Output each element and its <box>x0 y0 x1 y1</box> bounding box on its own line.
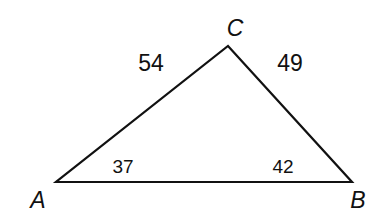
side-label-ac: 54 <box>138 50 164 76</box>
triangle-abc <box>56 46 352 182</box>
angle-label-a: 37 <box>112 156 133 177</box>
angle-label-b: 42 <box>272 156 293 177</box>
vertex-label-a: A <box>28 187 45 213</box>
vertex-label-c: C <box>227 15 244 41</box>
vertex-label-b: B <box>350 187 365 213</box>
triangle-diagram: C A B 54 49 37 42 <box>0 0 380 219</box>
side-label-bc: 49 <box>277 50 303 76</box>
